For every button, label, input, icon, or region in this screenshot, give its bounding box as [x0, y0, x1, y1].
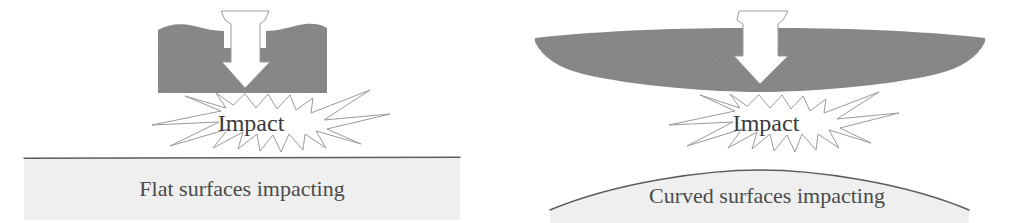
panel-curved-surfaces: Impact Curved surfaces impacting: [507, 0, 1014, 223]
flat-surfaces-illustration: Impact Flat surfaces impacting: [0, 0, 507, 223]
panel-flat-surfaces: Impact Flat surfaces impacting: [0, 0, 507, 223]
curved-caption: Curved surfaces impacting: [649, 183, 885, 208]
flat-ground-line: [24, 157, 460, 158]
flat-caption: Flat surfaces impacting: [139, 176, 344, 201]
impact-label: Impact: [733, 110, 800, 136]
impact-label: Impact: [218, 110, 285, 136]
curved-surfaces-illustration: Impact Curved surfaces impacting: [507, 0, 1014, 223]
impact-comparison-figure: Impact Flat surfaces impacting: [0, 0, 1014, 223]
